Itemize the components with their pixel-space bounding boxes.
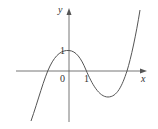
y-axis-arrow-icon: [67, 8, 72, 15]
cubic-curve: [31, 10, 140, 121]
origin-label: 0: [60, 73, 65, 84]
y-axis-label: y: [57, 4, 63, 15]
x-axis-label: x: [140, 73, 146, 84]
x-tick-label-1: 1: [84, 73, 89, 84]
function-graph: y x 1 0 1: [0, 0, 158, 129]
y-tick-label-1: 1: [60, 45, 65, 56]
